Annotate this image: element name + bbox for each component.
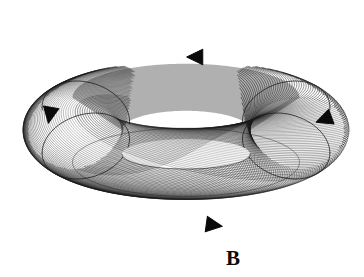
figure-container: B [0, 0, 364, 277]
figure-label-b: B [226, 248, 241, 269]
torus-illustration [0, 0, 364, 277]
